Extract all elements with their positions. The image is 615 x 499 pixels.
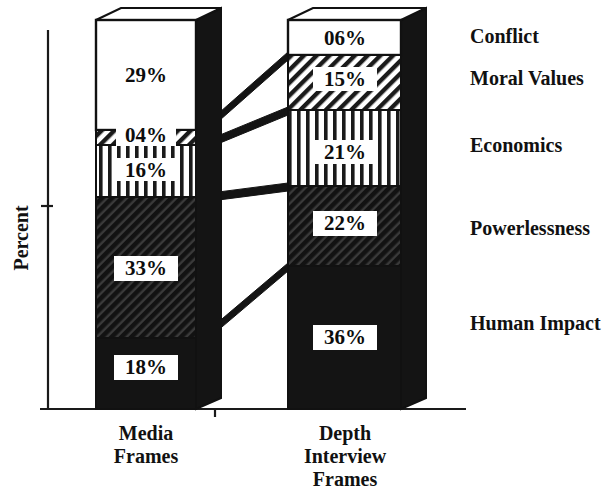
value-label-right-human-impact: 36% [324, 325, 366, 349]
legend-item-powerlessness[interactable]: Powerlessness [470, 217, 590, 239]
category-labels: Media Frames Depth Interview Frames [114, 422, 387, 490]
stacked-bar-chart: Percent 29% 04% 16% [0, 0, 615, 499]
value-label-right-economics: 21% [324, 140, 366, 164]
category-label-media-line1: Media [119, 422, 173, 444]
value-label-left-moral-values: 04% [125, 123, 167, 147]
category-label-depth-line1: Depth [319, 422, 371, 445]
bar-left-top-face [96, 8, 221, 20]
chart-canvas: Percent 29% 04% 16% [0, 0, 615, 499]
legend-item-conflict[interactable]: Conflict [470, 25, 539, 47]
value-label-left-economics: 16% [125, 158, 167, 182]
value-label-right-moral-values: 15% [324, 67, 366, 91]
category-label-media-line2: Frames [114, 445, 179, 467]
category-label-depth-line2: Interview [304, 445, 387, 467]
bar-media-frames[interactable]: 29% 04% 16% 33% 18% [96, 8, 221, 409]
y-axis-label: Percent [10, 205, 32, 270]
value-label-left-powerlessness: 33% [125, 256, 167, 280]
legend-item-moral-values[interactable]: Moral Values [470, 67, 584, 89]
legend: Conflict Moral Values Economics Powerles… [470, 25, 601, 335]
bar-right-side-face [401, 8, 426, 409]
bar-depth-interview-frames[interactable]: 06% 15% 21% 22% 36% [288, 8, 426, 409]
value-label-left-conflict: 29% [125, 63, 167, 87]
value-label-right-conflict: 06% [324, 26, 366, 50]
legend-item-human-impact[interactable]: Human Impact [470, 312, 601, 335]
value-label-right-powerlessness: 22% [324, 211, 366, 235]
bar-left-side-face [196, 8, 221, 409]
value-label-left-human-impact: 18% [125, 355, 167, 379]
y-axis-label-group: Percent [10, 205, 32, 270]
category-label-depth-line3: Frames [313, 468, 378, 490]
bar-right-top-face [288, 8, 426, 20]
legend-item-economics[interactable]: Economics [470, 134, 562, 156]
